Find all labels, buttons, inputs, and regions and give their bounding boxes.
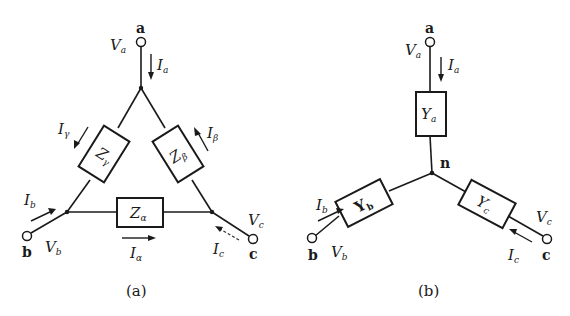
current-ib-label: Ib: [23, 191, 36, 210]
terminal-c-circle: [543, 235, 552, 244]
wire-zgamma-to-bl: [67, 180, 90, 212]
current-ibeta-arrowhead: [194, 127, 201, 136]
delta-node-bottom-right: [210, 210, 214, 214]
voltage-vc-label: Vc: [536, 208, 552, 227]
delta-wye-circuit-figure: Zγ Zβ Zα a b c Va: [0, 0, 570, 316]
current-ib-label: Ib: [315, 196, 328, 215]
delta-diagram: Zγ Zβ Zα a b c Va: [22, 20, 264, 300]
current-ic-arrow: [514, 232, 532, 242]
neutral-node: [430, 171, 435, 176]
voltage-va-label: Va: [110, 36, 126, 55]
admittance-y-a: Ya: [416, 92, 446, 136]
voltage-vb-label: Vb: [45, 238, 62, 257]
caption-a: (a): [126, 282, 147, 300]
current-igamma-arrow: [77, 127, 88, 145]
admittance-y-c: Yc: [458, 180, 515, 228]
current-ia-label: Ia: [156, 56, 168, 75]
wire-zbeta-to-br: [192, 180, 212, 212]
current-ialpha-label: Iα: [129, 244, 142, 263]
current-ibeta-label: Iβ: [206, 124, 218, 143]
current-ia-arrowhead: [148, 72, 154, 80]
wire-yb-to-b: [315, 216, 339, 236]
terminal-b-label: b: [308, 247, 318, 263]
terminal-c-label: c: [249, 246, 258, 262]
wire-b-lead: [31, 212, 67, 233]
terminal-c-label: c: [542, 247, 551, 263]
wire-ya-to-n: [430, 136, 432, 173]
terminal-b-label: b: [22, 244, 32, 260]
wire-c-lead: [212, 212, 249, 236]
current-ib-arrow: [31, 211, 52, 221]
terminal-a-circle: [426, 38, 435, 47]
delta-node-top: [139, 86, 143, 90]
admittance-y-b: Yb: [335, 179, 392, 227]
current-ic-arrow: [220, 229, 239, 240]
current-ic-arrowhead: [215, 226, 223, 232]
impedance-z-alpha: Zα: [117, 198, 163, 227]
terminal-b-circle: [23, 232, 32, 241]
current-ic-arrowhead: [509, 229, 517, 235]
current-ialpha-arrowhead: [148, 235, 156, 241]
current-ic-label: Ic: [507, 246, 519, 265]
current-igamma-label: Iγ: [57, 120, 70, 139]
wye-diagram: Ya Yb Yc n a b c Va: [308, 20, 552, 300]
voltage-vb-label: Vb: [331, 243, 348, 262]
caption-b: (b): [418, 282, 439, 300]
current-ib-arrowhead: [48, 208, 56, 215]
voltage-va-label: Va: [405, 41, 421, 60]
wire-n-to-yb: [389, 173, 432, 191]
current-ia-arrowhead: [438, 74, 444, 82]
delta-node-bottom-left: [65, 210, 69, 214]
current-ia-label: Ia: [447, 56, 459, 75]
terminal-c-circle: [249, 235, 258, 244]
terminal-b-circle: [308, 234, 317, 243]
terminal-a-label: a: [425, 20, 434, 36]
terminal-a-circle: [137, 38, 146, 47]
current-ic-label: Ic: [212, 240, 224, 259]
neutral-label: n: [440, 155, 450, 171]
wire-top-to-zbeta: [141, 88, 165, 128]
terminal-a-label: a: [136, 20, 145, 36]
wire-n-to-yc: [432, 173, 466, 192]
wire-top-to-zgamma: [118, 88, 141, 128]
voltage-vc-label: Vc: [248, 211, 264, 230]
impedance-z-gamma: Zγ: [79, 126, 130, 183]
